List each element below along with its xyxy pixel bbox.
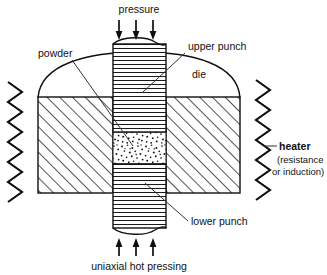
bottom-arrows: [116, 238, 157, 256]
heater-left-zigzag: [8, 82, 22, 202]
upper-punch-label: upper punch: [188, 40, 247, 52]
die-label: die: [192, 68, 206, 80]
pressure-label: pressure: [119, 3, 160, 15]
powder-region: [113, 132, 166, 164]
pressure-arrows: [116, 20, 157, 40]
upper-punch-part: [113, 38, 166, 132]
diagram-canvas: pressure upper punch powder die heater (…: [0, 0, 327, 275]
heater-label: heater: [279, 140, 311, 152]
lower-punch-label: lower punch: [191, 215, 248, 227]
caption-label: uniaxial hot pressing: [91, 260, 187, 272]
uniaxial-hot-pressing-diagram: pressure upper punch powder die heater (…: [0, 0, 327, 275]
die-left-block: [38, 97, 113, 193]
heater-sub-line1: (resistance: [277, 154, 323, 165]
heater-sub-line2: or induction): [272, 166, 324, 177]
lower-punch-part: [113, 164, 166, 234]
heater-right-zigzag: [256, 80, 270, 200]
powder-label: powder: [38, 47, 73, 59]
die-right-block: [166, 97, 240, 193]
